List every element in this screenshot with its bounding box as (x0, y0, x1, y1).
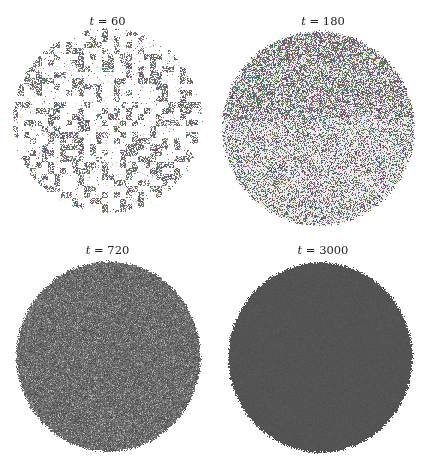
equals-sign: = (302, 243, 319, 257)
panel-t-180: t = 180 (215, 0, 431, 234)
time-value: 720 (107, 243, 129, 257)
panel-title-t-60: t = 60 (0, 14, 215, 28)
disk-pattern-t-720 (0, 234, 215, 468)
disk-pattern-t-180 (215, 0, 431, 234)
panel-title-t-3000: t = 3000 (215, 243, 431, 257)
time-value: 180 (323, 14, 345, 28)
panel-t-720: t = 720 (0, 234, 215, 468)
panel-title-t-180: t = 180 (215, 14, 431, 28)
panel-title-t-720: t = 720 (0, 243, 215, 257)
panel-t-3000: t = 3000 (215, 234, 431, 468)
equals-sign: = (94, 14, 111, 28)
time-value: 60 (111, 14, 126, 28)
time-value: 3000 (319, 243, 348, 257)
disk-pattern-t-60 (0, 0, 215, 234)
equals-sign: = (306, 14, 323, 28)
equals-sign: = (90, 243, 107, 257)
disk-pattern-t-3000 (215, 234, 431, 468)
panel-t-60: t = 60 (0, 0, 215, 234)
